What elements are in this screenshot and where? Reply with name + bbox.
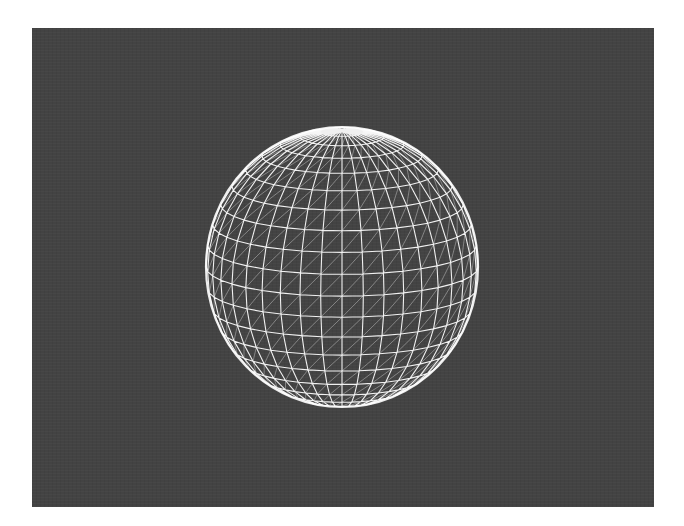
image-frame — [0, 0, 684, 526]
render-viewport — [32, 28, 654, 507]
wireframe-sphere — [32, 28, 654, 507]
